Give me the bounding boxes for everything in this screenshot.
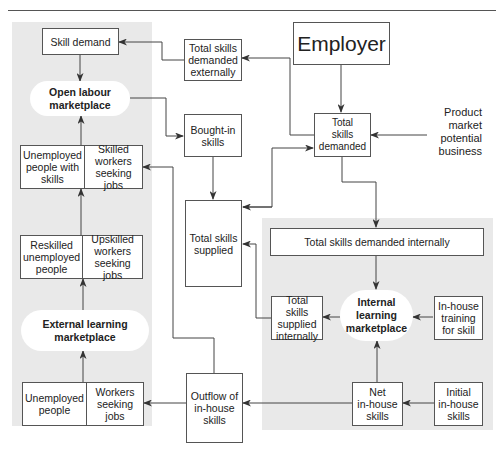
bought-in-skills-label: Bought-in skills [191, 124, 236, 148]
product-market-label: Product market potential business [439, 106, 482, 157]
total-skills-demanded-externally-label: Total skills demanded externally [188, 42, 238, 78]
internal-learning-marketplace-node: Internal learning marketplace [340, 290, 413, 341]
workers-seeking-jobs-label: Workers seeking jobs [89, 386, 141, 422]
in-house-training-node: In-house training for skill [434, 296, 483, 340]
outflow-in-house-skills-label: Outflow of in-house skills [191, 390, 238, 426]
total-skills-demanded-internally-node: Total skills demanded internally [270, 228, 484, 256]
external-learning-marketplace-label: External learning marketplace [42, 318, 127, 344]
skill-demand-node: Skill demand [42, 28, 119, 55]
open-labour-marketplace-node: Open labour marketplace [30, 81, 130, 116]
internal-learning-marketplace-label: Internal learning marketplace [346, 296, 407, 335]
total-skills-demanded-externally-node: Total skills demanded externally [184, 39, 242, 81]
labour-supply-pair-node: Unemployed people with skills Skilled wo… [20, 145, 143, 189]
in-house-training-label: In-house training for skill [438, 300, 479, 336]
upskilled-workers-label: Upskilled workers seeking jobs [85, 233, 140, 281]
unemployed-people-label: Unemployed people [25, 392, 84, 416]
total-skills-supplied-internally-label: Total skills supplied internally [274, 294, 320, 342]
outflow-in-house-skills-node: Outflow of in-house skills [186, 373, 243, 443]
total-skills-demanded-label: Total skills demanded [319, 117, 366, 153]
total-skills-demanded-node: Total skills demanded [314, 113, 371, 157]
initial-in-house-skills-label: Initial in-house skills [438, 386, 478, 422]
open-labour-marketplace-label: Open labour marketplace [49, 86, 111, 112]
total-skills-demanded-internally-label: Total skills demanded internally [304, 236, 449, 248]
product-market-text: Product market potential business [420, 106, 482, 158]
total-skills-supplied-label: Total skills supplied [190, 232, 238, 256]
bought-in-skills-node: Bought-in skills [184, 114, 242, 157]
total-skills-supplied-node: Total skills supplied [185, 200, 242, 287]
employer-label: Employer [297, 32, 386, 56]
reskilled-upskilled-pair-node: Reskilled unemployed people Upskilled wo… [20, 235, 143, 279]
initial-in-house-skills-node: Initial in-house skills [434, 382, 483, 426]
skilled-workers-label: Skilled workers seeking jobs [87, 143, 140, 191]
net-in-house-skills-label: Net in-house skills [357, 386, 397, 422]
total-skills-supplied-internally-node: Total skills supplied internally [271, 296, 323, 340]
skill-demand-label: Skill demand [50, 36, 110, 48]
external-learning-marketplace-node: External learning marketplace [21, 310, 149, 351]
unemployed-with-skills-label: Unemployed people with skills [23, 149, 82, 185]
net-in-house-skills-node: Net in-house skills [352, 382, 403, 426]
employer-node: Employer [293, 22, 390, 65]
reskilled-unemployed-label: Reskilled unemployed people [23, 239, 80, 275]
unemployed-workers-pair-node: Unemployed people Workers seeking jobs [22, 382, 144, 426]
